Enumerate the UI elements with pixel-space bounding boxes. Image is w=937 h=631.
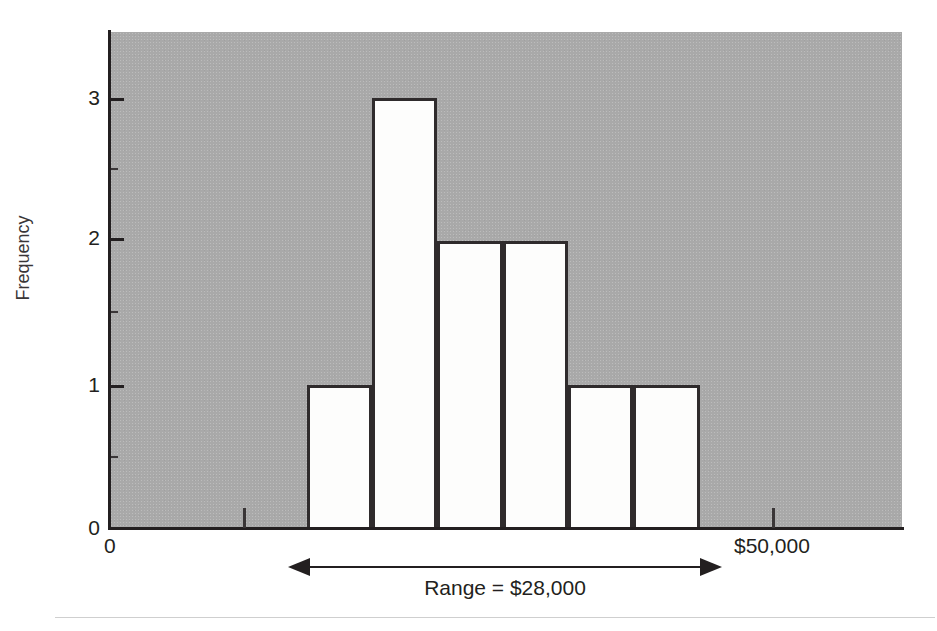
range-annotation-label: Range = $28,000 (310, 575, 700, 601)
arrow-head-left-icon (288, 558, 310, 576)
y-axis-line (108, 30, 111, 530)
x-axis-tick-mark (772, 508, 775, 528)
histogram-bar (633, 385, 700, 530)
histogram-bar (372, 98, 437, 530)
y-axis-minor-tick (111, 456, 118, 458)
y-axis-title: Frequency (14, 193, 32, 323)
y-axis-tick-label: 2 (60, 227, 100, 248)
histogram-bar (437, 241, 503, 530)
chart-figure: 3210 0$50,000 Frequency Range = $28,000 (0, 0, 937, 631)
x-axis-tick-label: $50,000 (734, 534, 810, 558)
y-axis-tick-label: 1 (60, 374, 100, 395)
y-axis-minor-tick (111, 311, 118, 313)
range-arrow (310, 566, 700, 568)
footer-divider (55, 617, 935, 618)
x-axis-line (108, 527, 904, 530)
y-axis-tick-mark (111, 385, 124, 388)
histogram-bar (568, 385, 633, 530)
x-axis-tick-mark (243, 508, 246, 528)
x-axis-tick-label: 0 (104, 534, 116, 558)
y-axis-tick-mark (111, 98, 124, 101)
histogram-bar (307, 385, 372, 530)
y-axis-tick-label: 3 (60, 87, 100, 108)
histogram-bar (503, 241, 568, 530)
y-axis-tick-mark (111, 238, 124, 241)
arrow-head-right-icon (700, 558, 722, 576)
y-axis-minor-tick (111, 168, 118, 170)
y-axis-tick-label: 0 (60, 517, 100, 538)
